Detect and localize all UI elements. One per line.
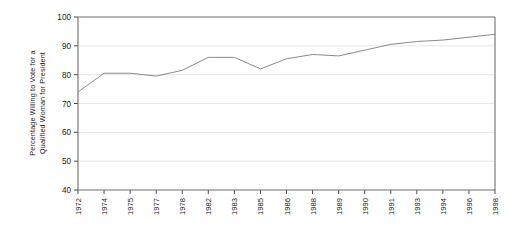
line-chart-plot: 405060708090100 197219741975197719781982… bbox=[0, 0, 521, 231]
x-tick-label: 1990 bbox=[361, 198, 370, 215]
x-tick-label: 1983 bbox=[230, 198, 239, 215]
y-tick-label: 60 bbox=[62, 128, 72, 137]
x-tick-label: 1994 bbox=[439, 198, 448, 215]
x-tick-label: 1988 bbox=[309, 198, 318, 215]
x-tick-label: 1974 bbox=[100, 198, 109, 215]
y-tick-label: 100 bbox=[57, 13, 71, 22]
y-tick-label: 90 bbox=[62, 42, 72, 51]
y-tick-label: 50 bbox=[62, 157, 72, 166]
x-tick-label: 1985 bbox=[256, 198, 265, 215]
chart-figure: Percentage Willing to Vote for a Qualifi… bbox=[0, 0, 521, 231]
y-tick-label: 40 bbox=[62, 186, 72, 195]
x-tick-label: 1982 bbox=[204, 198, 213, 215]
x-tick-label: 1972 bbox=[74, 198, 83, 215]
x-tick-label: 1998 bbox=[491, 198, 500, 215]
y-tick-label: 80 bbox=[62, 71, 72, 80]
x-tick-label: 1996 bbox=[465, 198, 474, 215]
x-tick-label: 1978 bbox=[178, 198, 187, 215]
y-tick-label: 70 bbox=[62, 100, 72, 109]
x-tick-label: 1991 bbox=[387, 198, 396, 215]
x-tick-label: 1977 bbox=[152, 198, 161, 215]
x-tick-label: 1986 bbox=[283, 198, 292, 215]
x-axis-ticks: 1972197419751977197819821983198519861988… bbox=[74, 190, 500, 215]
y-axis-ticks: 405060708090100 bbox=[57, 13, 78, 195]
x-tick-label: 1993 bbox=[413, 198, 422, 215]
x-tick-label: 1989 bbox=[335, 198, 344, 215]
x-tick-label: 1975 bbox=[126, 198, 135, 215]
